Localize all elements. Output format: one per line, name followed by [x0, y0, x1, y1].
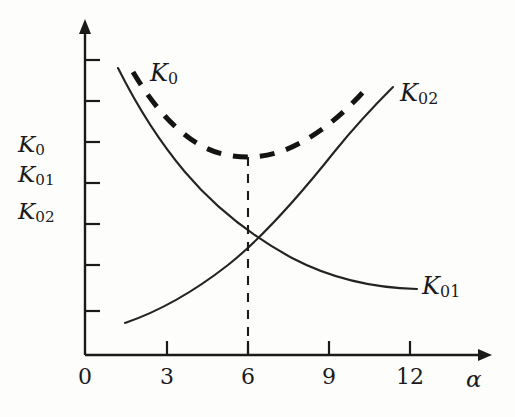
curve-label-k01: K01	[422, 272, 460, 301]
x-tick-label-12: 12	[390, 364, 430, 389]
x-axis-arrowhead	[478, 349, 492, 361]
y-axis-label-k0: K0	[18, 130, 80, 160]
x-tick-label-0: 0	[65, 364, 105, 389]
y-axis-label-k01: K01	[18, 160, 80, 190]
axis-lines	[79, 19, 492, 361]
curve-label-k0: K0	[150, 59, 178, 88]
y-axis-ticks	[85, 60, 100, 311]
y-axis-label-k02: K02	[18, 197, 80, 227]
x-tick-label-6: 6	[228, 364, 268, 389]
curve-label-k02: K02	[400, 79, 438, 108]
y-axis-arrowhead	[79, 19, 91, 34]
x-tick-label-9: 9	[309, 364, 349, 389]
y-axis-label: K0K01K02	[18, 130, 80, 227]
curve-k02	[125, 87, 393, 323]
x-tick-label-3: 3	[147, 364, 187, 389]
x-axis-title: α	[466, 366, 482, 392]
curve-k01	[118, 68, 417, 289]
chart-figure: K0K01K02 0 3 6 9 12 α K0 K02 K01	[0, 0, 515, 417]
x-axis-ticks	[167, 341, 410, 355]
